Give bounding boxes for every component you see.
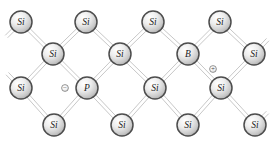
- bond-line-1: [194, 28, 211, 45]
- atom-si-r2-c1[interactable]: Si: [42, 43, 64, 65]
- bond-line-2: [164, 63, 182, 82]
- bond-p-r3-c2-si-r4-c2: [93, 94, 116, 118]
- atom-si-r1-c2[interactable]: Si: [75, 11, 97, 33]
- atom-circle: [10, 11, 32, 33]
- atom-si-r3-c4[interactable]: Si: [210, 77, 232, 99]
- bond-line-2: [95, 28, 114, 46]
- bond-line-1: [227, 60, 245, 79]
- bond-si-r1-c4-si-r2-c4: [226, 28, 247, 48]
- atom-si-r1-c1[interactable]: Si: [10, 11, 32, 33]
- atom-circle: [243, 43, 265, 65]
- atom-circle: [10, 77, 32, 99]
- bond-line-1: [59, 63, 78, 82]
- bond-line-2: [229, 28, 248, 46]
- bond-line-1: [27, 60, 45, 79]
- bond-line-1: [93, 60, 111, 79]
- bond-si-r2-c1-si-r3-c1: [27, 60, 47, 81]
- atom-si-r3-c1[interactable]: Si: [10, 77, 32, 99]
- bond-line-1: [27, 31, 44, 48]
- bond-line-1: [161, 97, 180, 118]
- bond-si-r2-c1-p-r3-c2: [59, 60, 81, 82]
- bond-line-1: [194, 63, 212, 82]
- atom-b-r2-c3[interactable]: B: [177, 43, 199, 65]
- bond-line-2: [229, 95, 249, 117]
- bond-line-2: [95, 94, 116, 116]
- bond-line-1: [27, 97, 46, 118]
- bond-si-r1-c2-si-r2-c2: [92, 28, 113, 48]
- atom-si-r3-c3[interactable]: Si: [144, 77, 166, 99]
- bond-si-r3-c3-si-r4-c2: [128, 95, 150, 119]
- bond-line-1: [128, 95, 147, 116]
- bond-line-2: [130, 97, 149, 118]
- bond-b-r2-c3-si-r3-c3: [161, 60, 182, 81]
- bond-line-2: [30, 28, 47, 45]
- bond-si-r1-c2-si-r2-c1: [59, 28, 79, 48]
- atom-si-r1-c3[interactable]: Si: [142, 11, 164, 33]
- bond-line-2: [163, 95, 182, 116]
- free-electron-marker: −: [62, 84, 69, 92]
- atom-circle: [244, 114, 266, 136]
- bond-line-1: [226, 30, 245, 48]
- bond-line-2: [29, 95, 48, 116]
- atom-si-r4-c3[interactable]: Si: [177, 114, 199, 136]
- atom-si-r4-c4[interactable]: Si: [244, 114, 266, 136]
- atom-p-r3-c2[interactable]: P: [76, 77, 98, 99]
- bond-p-r3-c2-si-r4-c1: [60, 95, 82, 119]
- bond-si-r2-c2-p-r3-c2: [93, 60, 114, 81]
- lattice-diagram: SiSiSiSiSiSiBSiSiPSiSiSiSiSiSi −+: [0, 0, 275, 141]
- atom-circle: [177, 43, 199, 65]
- bond-line-2: [197, 31, 214, 48]
- bond-line-1: [227, 97, 247, 119]
- atom-circle: [142, 11, 164, 33]
- atom-si-r1-c4[interactable]: Si: [209, 11, 231, 33]
- atom-si-r4-c2[interactable]: Si: [111, 114, 133, 136]
- atom-circle: [76, 77, 98, 99]
- bond-line-2: [230, 63, 248, 82]
- atom-circle: [109, 43, 131, 65]
- bond-line-1: [60, 95, 79, 116]
- atom-circle: [209, 11, 231, 33]
- bond-si-r3-c4-si-r4-c3: [194, 95, 216, 119]
- atom-circle: [177, 114, 199, 136]
- bond-line-2: [62, 97, 81, 118]
- bond-line-1: [161, 60, 179, 79]
- bond-line-1: [160, 30, 180, 48]
- bond-line-1: [126, 28, 144, 45]
- bond-line-1: [59, 28, 77, 45]
- atom-circle: [42, 43, 64, 65]
- bond-si-r3-c4-si-r4-c4: [227, 95, 249, 119]
- bond-line-2: [129, 31, 147, 48]
- bond-line-1: [92, 30, 111, 48]
- bond-line-1: [93, 97, 114, 119]
- bond-line-2: [62, 60, 81, 79]
- atom-si-r2-c4[interactable]: Si: [243, 43, 265, 65]
- bond-si-r2-c4-si-r3-c4: [227, 60, 248, 81]
- bond-si-r1-c4-b-r2-c3: [194, 28, 214, 48]
- bond-line-2: [162, 28, 182, 46]
- bond-line-1: [126, 63, 146, 82]
- bond-line-2: [129, 60, 149, 79]
- lattice-svg: SiSiSiSiSiSiBSiSiPSiSiSiSiSiSi −+: [0, 0, 275, 141]
- bond-line-2: [29, 63, 47, 82]
- bond-line-2: [196, 97, 215, 118]
- bond-si-r3-c3-si-r4-c3: [161, 95, 183, 119]
- bond-line-1: [194, 95, 213, 116]
- bond-si-r1-c3-b-r2-c3: [160, 28, 182, 48]
- bond-si-r2-c2-si-r3-c3: [126, 60, 148, 82]
- atom-circle: [144, 77, 166, 99]
- hole-circle: [210, 66, 217, 73]
- bond-si-r3-c1-si-r4-c1: [27, 95, 49, 119]
- atom-circle: [43, 114, 65, 136]
- bond-si-r1-c1-si-r2-c1: [27, 28, 47, 48]
- bond-si-r1-c3-si-r2-c2: [126, 28, 146, 48]
- hole-marker: +: [210, 65, 217, 73]
- atom-circle: [111, 114, 133, 136]
- bond-line-2: [96, 63, 114, 82]
- atom-circle: [210, 77, 232, 99]
- bonds-layer: [5, 28, 269, 119]
- atom-si-r4-c1[interactable]: Si: [43, 114, 65, 136]
- bond-line-2: [62, 31, 80, 48]
- free-electron-circle: [62, 85, 69, 92]
- atom-circle: [75, 11, 97, 33]
- atom-si-r2-c2[interactable]: Si: [109, 43, 131, 65]
